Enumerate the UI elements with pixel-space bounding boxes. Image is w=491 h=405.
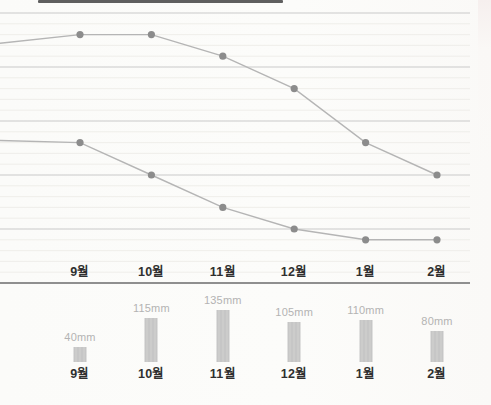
lower-line: [0, 140, 437, 239]
x-axis-label: 1월: [334, 265, 398, 279]
bar-value-label: 105mm: [262, 306, 326, 319]
upper-line-point: [433, 171, 440, 178]
upper-line-point: [291, 85, 298, 92]
bar-month-label: 1월: [334, 367, 398, 381]
lower-line-point: [362, 236, 369, 243]
temperature-line-chart: [0, 0, 491, 292]
x-axis-label: 12월: [262, 265, 326, 279]
lower-line-point: [76, 139, 83, 146]
bar-value-label: 115mm: [119, 302, 183, 315]
lower-line-point: [291, 225, 298, 232]
upper-line-point: [219, 53, 226, 60]
x-axis-label: 9월: [48, 265, 112, 279]
cropped-content-edge: [38, 0, 283, 3]
bar-group: 80mm2월: [405, 288, 469, 405]
x-axis-label: 11월: [191, 265, 255, 279]
bar-value-label: 80mm: [405, 315, 469, 328]
lower-line-point: [433, 236, 440, 243]
bar-group: 135mm11월: [191, 288, 255, 405]
bar-month-label: 10월: [119, 367, 183, 381]
lower-line-point: [148, 171, 155, 178]
x-axis-label: 10월: [119, 265, 183, 279]
x-axis-label: 2월: [405, 265, 469, 279]
scanned-climate-chart-page: 9월10월11월12월1월2월 40mm9월115mm10월135mm11월10…: [0, 0, 491, 405]
precipitation-bar: [74, 347, 87, 362]
precipitation-bar: [431, 331, 444, 362]
upper-line: [0, 35, 437, 175]
bar-month-label: 9월: [48, 367, 112, 381]
precipitation-bar: [288, 322, 301, 362]
bar-group: 115mm10월: [119, 288, 183, 405]
bar-group: 110mm1월: [334, 288, 398, 405]
upper-line-point: [76, 31, 83, 38]
bar-month-label: 2월: [405, 367, 469, 381]
bar-group: 40mm9월: [48, 288, 112, 405]
bar-value-label: 110mm: [334, 304, 398, 317]
upper-line-point: [362, 139, 369, 146]
bar-month-label: 11월: [191, 367, 255, 381]
lower-line-point: [219, 204, 226, 211]
bar-month-label: 12월: [262, 367, 326, 381]
precipitation-bar: [216, 310, 229, 362]
bar-group: 105mm12월: [262, 288, 326, 405]
bar-value-label: 40mm: [48, 331, 112, 344]
upper-line-point: [148, 31, 155, 38]
precipitation-bar: [145, 318, 158, 362]
bar-value-label: 135mm: [191, 294, 255, 307]
precipitation-bar: [359, 320, 372, 362]
